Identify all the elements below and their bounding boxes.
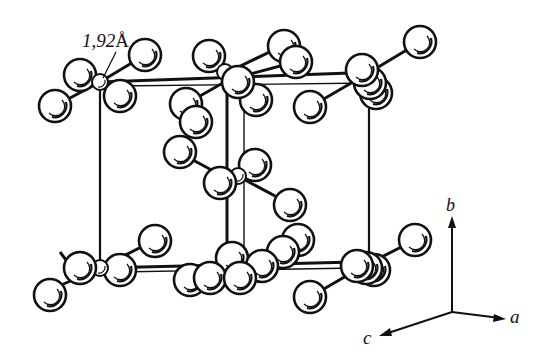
axis-label-c: c [363, 327, 371, 349]
bond-length-label: 1,92Å [82, 30, 129, 52]
bond-length-value: 1,92 [82, 30, 115, 51]
atoms-bottom [34, 224, 431, 313]
axis-label-b: b [446, 195, 455, 216]
bond-length-unit: Å [115, 30, 129, 51]
axis-label-a: a [510, 306, 520, 328]
axis-triad [379, 216, 506, 336]
crystal-structure-diagram [0, 0, 545, 352]
atoms-middle [164, 136, 306, 221]
